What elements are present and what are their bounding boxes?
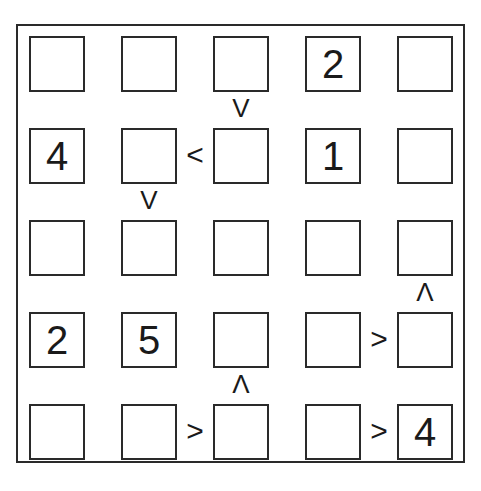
inequality-sign: > [364, 416, 394, 446]
empty-cell[interactable] [213, 312, 269, 368]
empty-cell[interactable] [29, 404, 85, 460]
empty-cell[interactable] [305, 220, 361, 276]
empty-cell[interactable] [397, 312, 453, 368]
empty-cell[interactable] [305, 312, 361, 368]
given-cell: 1 [305, 128, 361, 184]
empty-cell[interactable] [397, 128, 453, 184]
empty-cell[interactable] [213, 128, 269, 184]
inequality-sign: > [180, 416, 210, 446]
empty-cell[interactable] [121, 220, 177, 276]
inequality-sign: Λ [410, 279, 440, 305]
given-cell: 5 [121, 312, 177, 368]
given-cell: 4 [29, 128, 85, 184]
empty-cell[interactable] [397, 36, 453, 92]
given-cell: 2 [305, 36, 361, 92]
empty-cell[interactable] [213, 404, 269, 460]
empty-cell[interactable] [29, 220, 85, 276]
empty-cell[interactable] [213, 36, 269, 92]
inequality-sign: V [134, 187, 164, 213]
inequality-sign: < [180, 140, 210, 170]
inequality-sign: > [364, 324, 394, 354]
empty-cell[interactable] [121, 404, 177, 460]
given-cell: 2 [29, 312, 85, 368]
inequality-sign: Λ [226, 371, 256, 397]
empty-cell[interactable] [397, 220, 453, 276]
empty-cell[interactable] [305, 404, 361, 460]
given-cell: 4 [397, 404, 453, 460]
inequality-sign: V [226, 95, 256, 121]
empty-cell[interactable] [213, 220, 269, 276]
empty-cell[interactable] [29, 36, 85, 92]
empty-cell[interactable] [121, 36, 177, 92]
empty-cell[interactable] [121, 128, 177, 184]
